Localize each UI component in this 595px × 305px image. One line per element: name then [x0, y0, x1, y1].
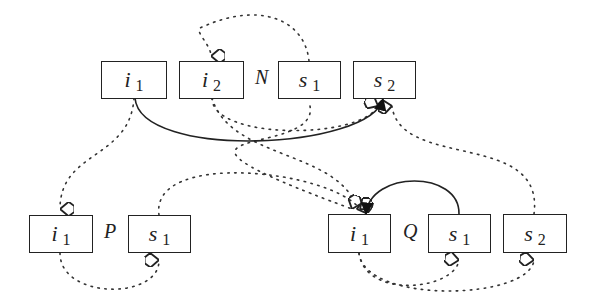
node-name: s: [524, 221, 533, 247]
node-q-s2[interactable]: s2: [503, 214, 567, 253]
edge-p-s1-to-q-i1: [159, 173, 360, 215]
node-n-i2[interactable]: i2: [179, 61, 244, 99]
node-name: s: [449, 221, 458, 247]
edge-n-i1-to-p-i1: [60, 98, 134, 209]
edge-p-i1-to-p-s1: [60, 253, 159, 289]
edge-n-i1-to-n-s2: [135, 98, 383, 141]
node-q-i1[interactable]: i1: [328, 214, 391, 253]
node-subscript: 2: [387, 77, 395, 95]
node-p-i1[interactable]: i1: [29, 215, 93, 253]
node-name: s: [149, 221, 158, 247]
node-subscript: 2: [213, 77, 221, 95]
group-label-n: N: [255, 66, 268, 89]
diagram-canvas: i1 i2 N s1 s2 i1 P s1 i1 Q s1 s2: [0, 0, 595, 305]
edge-q-s1-to-q-i1: [366, 181, 459, 214]
edge-q-s2-to-n-s2: [392, 106, 535, 214]
node-n-i1[interactable]: i1: [101, 61, 167, 99]
group-label-q: Q: [403, 220, 417, 243]
node-subscript: 1: [462, 231, 470, 249]
node-q-s1[interactable]: s1: [428, 214, 491, 253]
node-n-s2[interactable]: s2: [353, 61, 416, 99]
node-name: s: [299, 67, 308, 93]
node-subscript: 2: [538, 231, 546, 249]
node-name: s: [374, 67, 383, 93]
node-subscript: 1: [312, 77, 320, 95]
node-subscript: 1: [361, 231, 369, 249]
group-label-p: P: [104, 220, 116, 243]
node-name: i: [124, 67, 130, 93]
edge-n-i2-to-n-s2: [212, 98, 378, 131]
node-subscript: 1: [136, 77, 144, 95]
edge-q-i1-to-q-s2: [359, 253, 534, 291]
node-n-s1[interactable]: s1: [278, 61, 341, 99]
node-name: i: [51, 221, 57, 247]
edge-n-s1-to-n-i2: [199, 15, 309, 61]
edge-n-i2-to-q-i1: [212, 98, 357, 209]
edge-q-i1-to-q-s1: [359, 253, 459, 285]
edges-layer: [0, 0, 595, 305]
node-subscript: 1: [162, 231, 170, 249]
node-subscript: 1: [63, 231, 71, 249]
node-name: i: [202, 67, 208, 93]
node-name: i: [350, 221, 356, 247]
node-p-s1[interactable]: s1: [128, 215, 191, 253]
